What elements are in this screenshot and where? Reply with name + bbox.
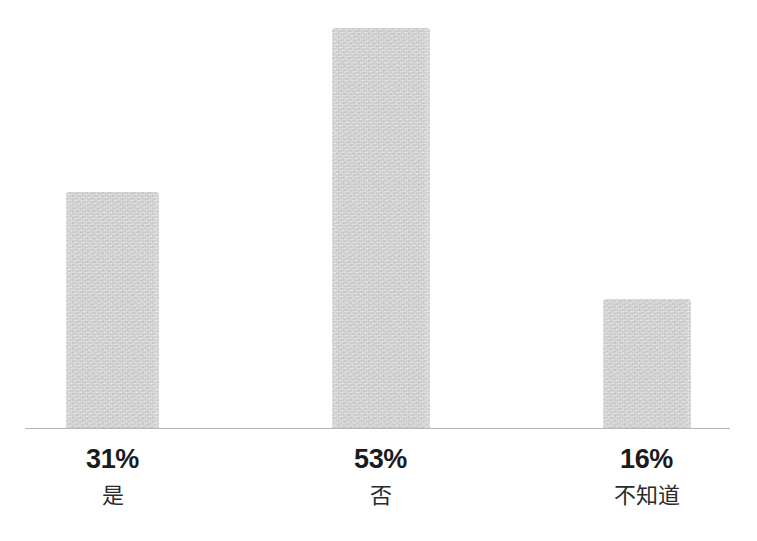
label-group-dont-know: 16% 不知道: [586, 443, 707, 511]
category-label-dont-know: 不知道: [586, 481, 707, 511]
label-group-no: 53% 否: [320, 443, 441, 511]
bar-dont-know[interactable]: [603, 299, 691, 429]
x-axis-line: [25, 428, 730, 429]
label-group-yes: 31% 是: [52, 443, 173, 511]
plot-area: [0, 0, 757, 429]
value-label-yes: 31%: [52, 443, 173, 475]
category-label-no: 否: [320, 481, 441, 511]
category-label-yes: 是: [52, 481, 173, 511]
bar-yes[interactable]: [66, 192, 159, 429]
value-label-no: 53%: [320, 443, 441, 475]
bar-no[interactable]: [332, 28, 430, 429]
value-label-dont-know: 16%: [586, 443, 707, 475]
bar-chart: 31% 是 53% 否 16% 不知道: [0, 0, 757, 541]
